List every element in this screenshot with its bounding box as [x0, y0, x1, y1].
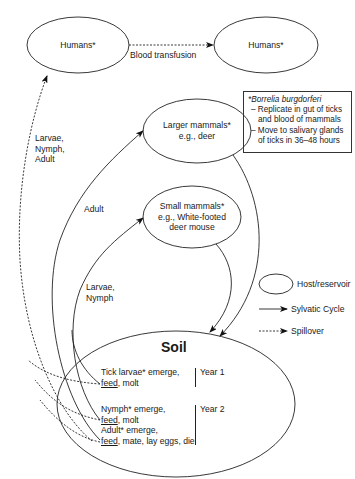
- feed-label: feed: [101, 415, 118, 425]
- larger-mammals-label: Larger mammals* e.g., deer: [163, 120, 231, 141]
- nymph-label: Nymph: [86, 293, 115, 304]
- larvae-nymph-edge-label: Larvae, Nymph: [86, 282, 115, 303]
- spillover-label-nymph: Nymph,: [35, 144, 65, 155]
- small-mammals-example-2: deer mouse: [158, 222, 226, 233]
- note-item: – Replicate in gut of ticks and blood of…: [248, 105, 347, 125]
- blood-transfusion-label: Blood transfusion: [130, 50, 196, 61]
- small-mammals-label: Small mammals* e.g., White-footed deer m…: [158, 201, 226, 233]
- year-2-label: Year 2: [200, 404, 225, 415]
- stage-adult-rest: , mate, lay eggs, die: [118, 436, 195, 446]
- larvae-label: Larvae,: [86, 282, 115, 293]
- spillover-humans-label: Larvae, Nymph, Adult: [35, 133, 65, 165]
- stage-nymph-rest: , molt: [118, 415, 139, 425]
- small-mammals-example-1: e.g., White-footed: [158, 212, 226, 223]
- spillover-label-adult: Adult: [35, 154, 65, 165]
- legend-host-label: Host/reservoir: [297, 279, 350, 290]
- year-1-label: Year 1: [200, 367, 225, 378]
- legend-sylvatic-label: Sylvatic Cycle: [291, 304, 344, 315]
- year-2-bracket: [195, 405, 196, 445]
- feed-label: feed: [101, 378, 118, 388]
- small-mammals-title: Small mammals*: [158, 201, 226, 212]
- legend-spillover-label: Spillover: [291, 326, 324, 337]
- stage-larvae-rest: , molt: [118, 378, 139, 388]
- sylvatic-arrow-larvae-nymph-to-small-mammals: [73, 218, 143, 420]
- larger-mammals-example: e.g., deer: [163, 131, 231, 142]
- stage-nymph-line1: Nymph* emerge,: [101, 404, 165, 415]
- stage-larvae-line1: Tick larvae* emerge,: [101, 367, 180, 378]
- soil-stage-larvae: Tick larvae* emerge, feed, molt: [101, 367, 180, 388]
- humans-left-label: Humans*: [60, 40, 95, 51]
- stage-adult-line1: Adult* emerge,: [101, 425, 195, 436]
- legend-host-icon: [259, 274, 293, 294]
- note-list: – Replicate in gut of ticks and blood of…: [248, 105, 347, 146]
- year-1-bracket: [195, 368, 196, 387]
- larger-mammals-title: Larger mammals*: [163, 120, 231, 131]
- note-title: *Borrelia burgdorferi: [248, 95, 347, 105]
- adult-edge-label: Adult: [84, 204, 104, 215]
- soil-stage-adult: Adult* emerge, feed, mate, lay eggs, die: [101, 425, 195, 446]
- diagram-canvas: [0, 0, 355, 479]
- feed-label: feed: [101, 436, 118, 446]
- note-item: – Move to salivary glands of ticks in 36…: [248, 126, 347, 146]
- humans-right-label: Humans*: [248, 40, 283, 51]
- borrelia-note-box: *Borrelia burgdorferi – Replicate in gut…: [243, 91, 352, 153]
- soil-stage-nymph: Nymph* emerge, feed, molt: [101, 404, 165, 425]
- sylvatic-line-larvae: [72, 330, 100, 384]
- spillover-label-larvae: Larvae,: [35, 133, 65, 144]
- sylvatic-arrow-small-mammals-to-soil: [210, 244, 231, 332]
- soil-title: Soil: [161, 339, 187, 355]
